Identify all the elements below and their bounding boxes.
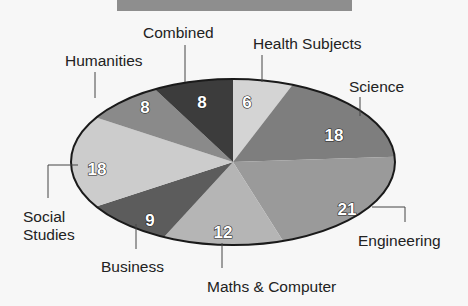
label-humanities: Humanities [65, 52, 143, 69]
value-health: 6 [242, 93, 251, 112]
value-maths: 12 [214, 223, 233, 242]
value-science: 18 [325, 126, 344, 145]
label-engineering: Engineering [358, 232, 441, 249]
label-combined: Combined [143, 24, 214, 41]
label-health: Health Subjects [253, 35, 362, 52]
label-business: Business [101, 258, 164, 275]
value-social: 18 [88, 160, 107, 179]
label-science: Science [349, 78, 404, 95]
value-engineering: 21 [338, 200, 357, 219]
value-humanities: 8 [140, 98, 149, 117]
label-social-line2: Studies [23, 226, 75, 243]
pie-slices [71, 79, 395, 245]
label-maths: Maths & Computer [207, 278, 336, 295]
value-combined: 8 [197, 93, 206, 112]
leader-line [372, 207, 405, 222]
value-business: 9 [145, 211, 154, 230]
label-social-line1: Social [23, 208, 65, 225]
pie-chart: 6 18 21 12 9 18 8 8 Combined Health Subj… [0, 0, 468, 306]
